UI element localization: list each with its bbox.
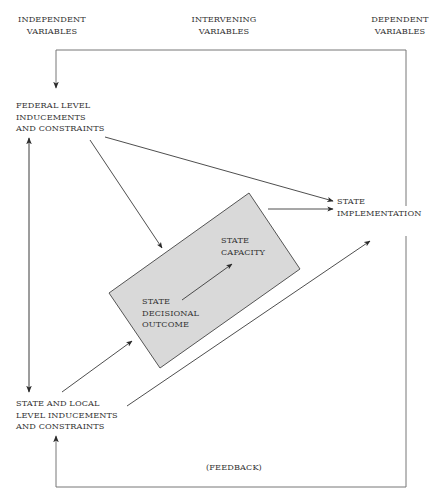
node-federal: FEDERAL LEVEL INDUCEMENTS AND CONSTRAINT… bbox=[16, 100, 105, 135]
node-state-capacity: STATE CAPACITY bbox=[221, 235, 265, 258]
node-state-decisional-outcome: STATE DECISIONAL OUTCOME bbox=[142, 296, 199, 331]
header-intervening-line1: INTERVENING bbox=[184, 14, 264, 26]
header-independent-line1: INDEPENDENT bbox=[12, 14, 92, 26]
header-independent-line2: VARIABLES bbox=[12, 26, 92, 38]
node-federal-line3: AND CONSTRAINTS bbox=[16, 123, 105, 135]
feedback-label-text: (FEEDBACK) bbox=[206, 462, 262, 472]
node-state-implementation: STATE IMPLEMENTATION bbox=[337, 196, 422, 219]
node-state-capacity-line2: CAPACITY bbox=[221, 247, 265, 259]
node-state-local-line2: LEVEL INDUCEMENTS bbox=[16, 410, 118, 422]
node-state-local-line3: AND CONSTRAINTS bbox=[16, 421, 118, 433]
federal-to-box-arrow bbox=[90, 140, 162, 248]
node-outcome-line3: OUTCOME bbox=[142, 319, 199, 331]
intervening-box bbox=[109, 193, 300, 368]
header-dependent: DEPENDENT VARIABLES bbox=[360, 14, 440, 37]
node-state-implementation-line2: IMPLEMENTATION bbox=[337, 208, 422, 220]
header-intervening: INTERVENING VARIABLES bbox=[184, 14, 264, 37]
header-dependent-line2: VARIABLES bbox=[360, 26, 440, 38]
feedback-label: (FEEDBACK) bbox=[206, 462, 262, 474]
node-state-local-line1: STATE AND LOCAL bbox=[16, 398, 118, 410]
header-dependent-line1: DEPENDENT bbox=[360, 14, 440, 26]
node-outcome-line2: DECISIONAL bbox=[142, 308, 199, 320]
node-state-local: STATE AND LOCAL LEVEL INDUCEMENTS AND CO… bbox=[16, 398, 118, 433]
header-intervening-line2: VARIABLES bbox=[184, 26, 264, 38]
node-state-implementation-line1: STATE bbox=[337, 196, 422, 208]
header-independent: INDEPENDENT VARIABLES bbox=[12, 14, 92, 37]
statelocal-to-box-arrow bbox=[62, 341, 132, 392]
node-outcome-line1: STATE bbox=[142, 296, 199, 308]
federal-to-implementation-arrow bbox=[105, 137, 333, 201]
node-federal-line2: INDUCEMENTS bbox=[16, 112, 105, 124]
node-state-capacity-line1: STATE bbox=[221, 235, 265, 247]
node-federal-line1: FEDERAL LEVEL bbox=[16, 100, 105, 112]
